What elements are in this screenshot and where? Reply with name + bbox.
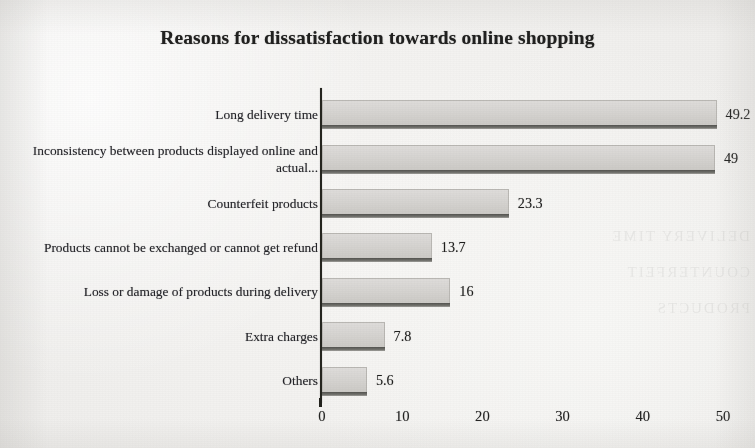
category-label: Products cannot be exchanged or cannot g… bbox=[18, 239, 318, 256]
x-tick-label: 0 bbox=[302, 408, 342, 425]
x-tick-label: 20 bbox=[462, 408, 502, 425]
y-axis-end-tick bbox=[319, 398, 322, 407]
bar bbox=[322, 322, 385, 348]
category-label: Inconsistency between products displayed… bbox=[18, 142, 318, 176]
plot-area: Long delivery time49.2Inconsistency betw… bbox=[0, 0, 755, 448]
bar-shadow-edge bbox=[322, 347, 385, 351]
category-label: Loss or damage of products during delive… bbox=[18, 283, 318, 300]
bar-shadow-edge bbox=[322, 170, 715, 174]
x-tick-label: 50 bbox=[703, 408, 743, 425]
chart-figure: DELIVERY TIME COUNTERFEIT PRODUCTS Reaso… bbox=[0, 0, 755, 448]
bar-shadow-edge bbox=[322, 214, 509, 218]
category-label: Counterfeit products bbox=[18, 195, 318, 212]
bar-shadow-edge bbox=[322, 392, 367, 396]
bar-shadow-edge bbox=[322, 258, 432, 262]
bar-value-label: 49.2 bbox=[726, 106, 751, 123]
bar-value-label: 16 bbox=[459, 283, 473, 300]
category-label: Extra charges bbox=[18, 328, 318, 345]
bar bbox=[322, 100, 717, 126]
bar bbox=[322, 278, 450, 304]
category-label: Long delivery time bbox=[18, 106, 318, 123]
bar-value-label: 23.3 bbox=[518, 195, 543, 212]
bar-value-label: 5.6 bbox=[376, 372, 394, 389]
bar bbox=[322, 145, 715, 171]
x-tick-label: 40 bbox=[623, 408, 663, 425]
bar bbox=[322, 233, 432, 259]
x-tick-label: 30 bbox=[543, 408, 583, 425]
bar-value-label: 49 bbox=[724, 150, 738, 167]
bar-value-label: 13.7 bbox=[441, 239, 466, 256]
bar bbox=[322, 189, 509, 215]
bar-shadow-edge bbox=[322, 125, 717, 129]
category-label: Others bbox=[18, 372, 318, 389]
x-tick-label: 10 bbox=[382, 408, 422, 425]
bar bbox=[322, 367, 367, 393]
bar-value-label: 7.8 bbox=[394, 328, 412, 345]
bar-shadow-edge bbox=[322, 303, 450, 307]
